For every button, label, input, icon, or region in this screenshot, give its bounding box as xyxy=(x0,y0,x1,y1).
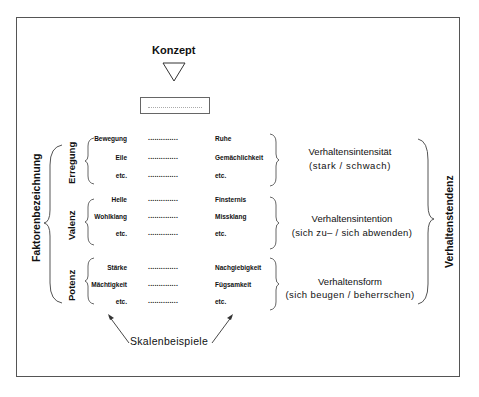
group-title-valenz: Verhaltensintention xyxy=(282,212,422,225)
scale-right-item: Nachgiebigkeit xyxy=(215,264,261,271)
scale-dots: .............. xyxy=(148,229,178,236)
scale-dots: .............. xyxy=(148,195,178,202)
scale-dots: .............. xyxy=(148,212,178,219)
scale-right-item: Missklang xyxy=(215,213,246,220)
group-title-potenz: Verhaltensform xyxy=(280,275,420,288)
scale-left-item: Eile xyxy=(47,154,127,161)
verhaltenstendenz-label: Verhaltenstendenz xyxy=(443,175,455,268)
scale-right-item: Finsternis xyxy=(215,196,246,203)
scale-dots: .............. xyxy=(148,153,178,160)
scale-right-item: etc. xyxy=(215,172,226,179)
valenz-right-brace-icon xyxy=(270,197,279,249)
scale-left-item: etc. xyxy=(47,230,127,237)
scale-left-item: Helle xyxy=(47,196,127,203)
scale-right-item: Ruhe xyxy=(215,135,231,142)
scale-right-item: Gemächlichkeit xyxy=(215,154,263,161)
right-arrowhead-icon xyxy=(227,314,233,320)
erregung-right-brace-icon xyxy=(270,134,279,186)
scale-dots: .............. xyxy=(148,297,178,304)
scale-dots: .............. xyxy=(148,171,178,178)
scale-dots: .............. xyxy=(148,263,178,270)
scale-left-item: Mächtigkeit xyxy=(47,281,127,288)
scale-dots: .............. xyxy=(148,134,178,141)
scale-left-item: Wohlklang xyxy=(47,213,127,220)
scale-right-item: Fügsamkeit xyxy=(215,281,251,288)
faktorenbezeichnung-label: Faktorenbezeichnung xyxy=(30,153,42,262)
group-subtitle-valenz: (sich zu– / sich abwenden) xyxy=(282,226,422,239)
left-arrowhead-icon xyxy=(108,314,114,320)
potenz-right-brace-icon xyxy=(270,258,279,310)
scale-right-item: etc. xyxy=(215,230,226,237)
scale-left-item: Stärke xyxy=(47,264,127,271)
scale-left-item: Bewegung xyxy=(47,135,127,142)
group-subtitle-potenz: (sich beugen / beherrschen) xyxy=(280,288,420,301)
scale-dots: .............. xyxy=(148,280,178,287)
group-title-erregung: Verhaltensintensität xyxy=(280,145,420,158)
scale-right-item: etc. xyxy=(215,298,226,305)
group-subtitle-erregung: (stark / schwach) xyxy=(280,159,420,172)
concept-triangle-icon xyxy=(163,63,185,81)
skalenbeispiele-label: Skalenbeispiele xyxy=(130,335,208,347)
right-arrow-line xyxy=(212,316,232,343)
left-outer-brace-icon xyxy=(44,145,62,303)
valenz-brace-icon xyxy=(85,199,94,245)
scale-left-item: etc. xyxy=(47,172,127,179)
scale-left-item: etc. xyxy=(47,298,127,305)
left-arrow-line xyxy=(109,316,129,343)
